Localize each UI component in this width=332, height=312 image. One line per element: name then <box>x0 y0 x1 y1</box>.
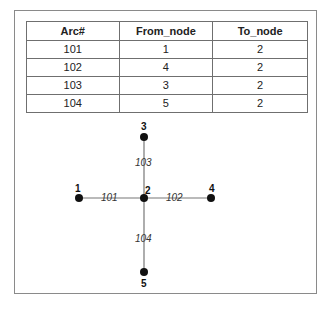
node-label-3: 3 <box>141 121 147 132</box>
arc-label-102: 102 <box>166 192 183 203</box>
node-4 <box>207 194 215 202</box>
node-1 <box>75 194 83 202</box>
network-graph: 101 102 103 104 1 2 3 4 5 <box>0 0 332 312</box>
node-5 <box>140 268 148 276</box>
node-label-5: 5 <box>141 278 147 289</box>
node-label-4: 4 <box>209 183 215 194</box>
node-label-2: 2 <box>145 185 151 196</box>
node-3 <box>140 133 148 141</box>
node-label-1: 1 <box>75 183 81 194</box>
arc-label-101: 101 <box>101 192 118 203</box>
arc-label-104: 104 <box>135 233 152 244</box>
arc-label-103: 103 <box>135 157 152 168</box>
